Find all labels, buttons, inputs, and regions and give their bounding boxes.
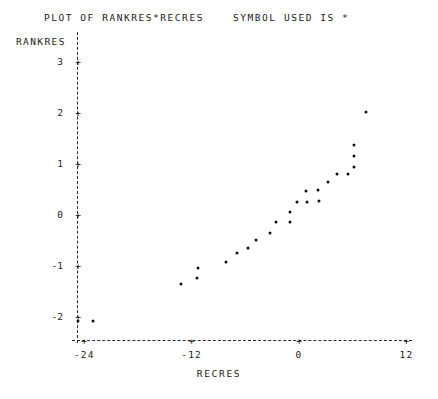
data-point xyxy=(317,200,320,203)
x-tick-mark: + xyxy=(189,336,195,346)
data-point xyxy=(305,190,308,193)
x-tick-label: -24 xyxy=(74,350,95,360)
y-tick-mark: + xyxy=(75,210,81,220)
data-point xyxy=(224,260,227,263)
data-point xyxy=(296,201,299,204)
data-point xyxy=(246,247,249,250)
data-point xyxy=(365,110,368,113)
plot-title: PLOT OF RANKRES*RECRES SYMBOL USED IS * xyxy=(44,12,349,23)
y-tick-mark: + xyxy=(75,261,81,271)
data-point xyxy=(92,320,95,323)
y-tick-mark: + xyxy=(75,108,81,118)
data-point xyxy=(179,282,182,285)
x-axis-line xyxy=(72,340,412,341)
data-point xyxy=(289,210,292,213)
y-tick-mark: + xyxy=(75,57,81,67)
y-tick-label: 2 xyxy=(57,108,63,118)
data-point xyxy=(236,252,239,255)
data-point xyxy=(269,231,272,234)
y-axis-line xyxy=(77,32,78,343)
x-tick-label: 12 xyxy=(399,350,413,360)
y-tick-label: 0 xyxy=(57,210,63,220)
x-tick-mark: + xyxy=(296,336,302,346)
data-point xyxy=(196,267,199,270)
data-point xyxy=(352,144,355,147)
y-tick-label: 1 xyxy=(57,159,63,169)
data-point xyxy=(326,180,329,183)
data-point xyxy=(316,189,319,192)
data-point xyxy=(195,277,198,280)
data-point xyxy=(274,221,277,224)
scatter-plot: PLOT OF RANKRES*RECRES SYMBOL USED IS * … xyxy=(0,0,438,399)
data-point xyxy=(306,201,309,204)
x-tick-mark: + xyxy=(404,336,410,346)
x-tick-label: 0 xyxy=(296,350,303,360)
y-tick-label: 3 xyxy=(57,57,63,67)
y-tick-mark: + xyxy=(75,159,81,169)
data-point xyxy=(289,221,292,224)
data-point xyxy=(255,238,258,241)
data-point xyxy=(76,320,79,323)
x-tick-label: -12 xyxy=(181,350,202,360)
data-point xyxy=(352,154,355,157)
x-tick-mark: + xyxy=(81,336,87,346)
x-axis-label: RECRES xyxy=(0,368,438,379)
data-point xyxy=(336,173,339,176)
y-axis-label: RANKRES xyxy=(16,36,66,47)
data-point xyxy=(352,166,355,169)
y-tick-label: -2 xyxy=(52,312,63,322)
y-tick-label: -1 xyxy=(52,261,63,271)
data-point xyxy=(347,173,350,176)
